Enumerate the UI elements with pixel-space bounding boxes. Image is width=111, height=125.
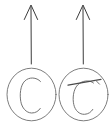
figure-svg <box>0 0 111 125</box>
letter-c-stroke <box>73 81 93 114</box>
figure-canvas <box>0 0 111 125</box>
circle-outline <box>59 68 108 121</box>
overline-tail-stroke <box>96 81 100 85</box>
up-arrow-icon <box>76 5 89 64</box>
left-group <box>7 5 56 121</box>
letter-c-glyph <box>20 78 40 113</box>
letter-c-stroke <box>20 78 40 113</box>
right-group <box>59 5 108 121</box>
up-arrow-icon <box>24 5 37 64</box>
letter-c-with-overline-glyph <box>68 79 101 114</box>
